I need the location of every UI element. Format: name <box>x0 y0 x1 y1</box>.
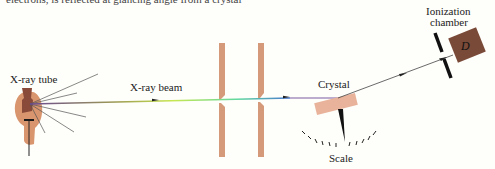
crystal <box>314 93 358 115</box>
xray-tube <box>15 88 42 156</box>
ionization-chamber: D <box>448 27 486 62</box>
reflected-beam <box>338 55 453 98</box>
anode-icon <box>22 88 33 113</box>
scale-pointer <box>338 109 345 142</box>
scale-label: Scale <box>329 152 353 164</box>
scale-ticks <box>302 131 376 147</box>
chamber-slit <box>435 33 451 78</box>
xray-tube-label: X-ray tube <box>10 73 57 85</box>
xray-beam <box>30 98 290 104</box>
xray-beam-label: X-ray beam <box>130 81 183 93</box>
cropped-top-text: electrons, is reflected at glancing angl… <box>6 0 241 5</box>
crystal-label: Crystal <box>318 78 350 90</box>
xray-spectrometer-diagram: electrons, is reflected at glancing angl… <box>0 0 495 169</box>
cathode-icon <box>24 119 34 121</box>
detector-label: D <box>460 39 470 53</box>
chamber-label-line2: chamber <box>430 16 468 28</box>
